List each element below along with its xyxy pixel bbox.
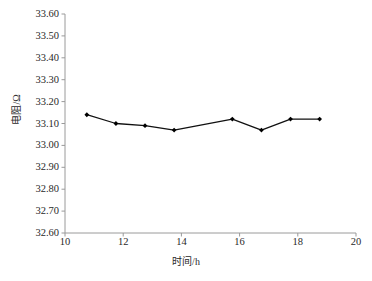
y-tick-label: 32.80 <box>17 184 59 195</box>
y-tick-label: 33.60 <box>17 9 59 20</box>
x-axis-title: 时间/h <box>0 256 372 268</box>
y-tick-label: 33.10 <box>17 119 59 130</box>
y-tick-label: 33.00 <box>17 140 59 151</box>
x-tick-label: 18 <box>283 236 313 247</box>
resistance-data-markers <box>84 112 322 132</box>
data-point-marker <box>114 121 119 126</box>
x-tick-label: 10 <box>50 236 80 247</box>
y-tick-label: 33.30 <box>17 75 59 86</box>
y-tick-label: 32.90 <box>17 162 59 173</box>
chart-figure: 电阻/Ω 时间/h 32.6032.7032.8032.9033.0033.10… <box>0 0 372 281</box>
y-tick-label: 33.40 <box>17 53 59 64</box>
resistance-data-line <box>87 115 320 130</box>
y-tick-label: 32.70 <box>17 206 59 217</box>
y-tick-label: 33.20 <box>17 97 59 108</box>
data-point-marker <box>230 117 235 122</box>
data-point-marker <box>259 128 264 133</box>
data-point-marker <box>143 123 148 128</box>
data-point-marker <box>288 117 293 122</box>
data-point-marker <box>84 112 89 117</box>
data-point-marker <box>317 117 322 122</box>
x-tick-label: 14 <box>166 236 196 247</box>
axis-tick-marks <box>62 14 357 237</box>
y-tick-label: 33.50 <box>17 31 59 42</box>
x-tick-label: 16 <box>225 236 255 247</box>
y-axis-title: 电阻/Ω <box>11 78 22 142</box>
x-tick-label: 12 <box>108 236 138 247</box>
x-tick-label: 20 <box>341 236 371 247</box>
data-point-marker <box>172 128 177 133</box>
